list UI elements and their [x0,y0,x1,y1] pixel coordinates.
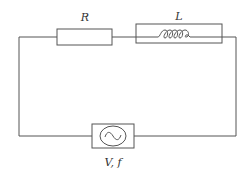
inductor-label: L [174,10,182,23]
wire-right [222,37,236,136]
inductor-body [136,24,222,43]
resistor-body [57,29,112,45]
ac-source-label: V, f [104,156,123,169]
inductor: L [136,10,222,43]
ac-source: V, f [92,124,134,169]
wire-left [19,37,57,136]
circuit-wires [19,37,236,136]
circuit-diagram: R L V, f [0,0,251,174]
resistor-label: R [80,11,89,24]
resistor: R [57,11,112,45]
